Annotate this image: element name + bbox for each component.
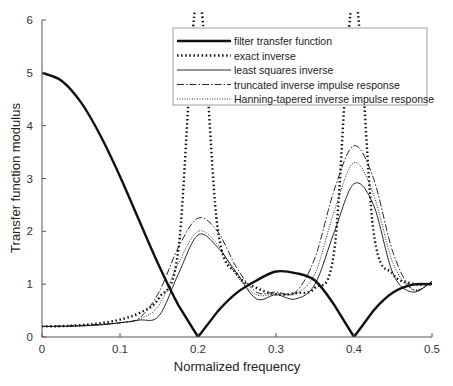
series-hanning-tapered-inverse-impulse-response [42, 162, 432, 326]
x-tick-label: 0.5 [424, 343, 440, 355]
y-tick-label: 6 [27, 14, 33, 26]
x-tick-label: 0 [39, 343, 45, 355]
x-axis-label: Normalized frequency [174, 359, 301, 374]
x-axis-ticks: 00.10.20.30.40.5 [39, 333, 440, 355]
y-axis-ticks: 0123456 [27, 14, 46, 343]
legend-label: least squares inverse [234, 64, 333, 76]
legend-label: Hanning-tapered inverse impulse response [234, 93, 434, 105]
legend-label: filter transfer function [234, 35, 332, 47]
y-tick-label: 4 [27, 120, 34, 132]
legend: filter transfer functionexact inverselea… [173, 28, 434, 105]
y-tick-label: 3 [27, 173, 33, 185]
y-tick-label: 5 [27, 67, 33, 79]
x-tick-label: 0.4 [346, 343, 363, 355]
y-tick-label: 1 [27, 278, 33, 290]
chart: 00.10.20.30.40.5 0123456 Normalized freq… [0, 0, 453, 386]
x-tick-label: 0.2 [190, 343, 206, 355]
y-tick-label: 2 [27, 225, 33, 237]
x-tick-label: 0.3 [268, 343, 284, 355]
series-least-squares-inverse [42, 183, 432, 327]
series-truncated-inverse-impulse-response [42, 146, 432, 327]
y-tick-label: 0 [27, 331, 33, 343]
legend-label: truncated inverse impulse response [234, 79, 400, 91]
y-axis-label: Transfer function modulus [8, 103, 23, 253]
x-tick-label: 0.1 [112, 343, 128, 355]
legend-label: exact inverse [234, 50, 296, 62]
